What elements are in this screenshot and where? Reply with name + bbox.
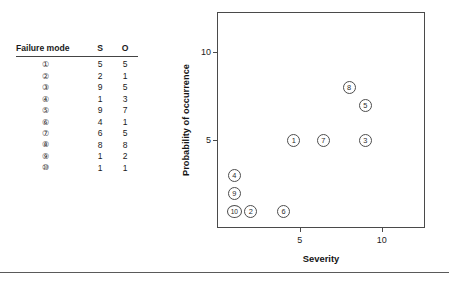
x-tick-label: 5 <box>297 235 302 245</box>
fmea-figure: Failure mode S O ①55②21③95④13⑤97⑥41⑦65⑧8… <box>0 0 449 283</box>
cell-severity: 4 <box>88 116 112 127</box>
table-head: Failure mode S O <box>16 44 138 56</box>
table-row: ⑥41 <box>16 116 138 127</box>
cell-severity: 1 <box>88 162 112 173</box>
circled-number: ⑧ <box>42 141 49 149</box>
cell-failure-mode: ⑧ <box>16 139 88 150</box>
table-row: ⑦65 <box>16 128 138 139</box>
y-tick-label: 5 <box>206 135 211 145</box>
table-row: ③95 <box>16 82 138 93</box>
circled-number: ④ <box>42 96 49 104</box>
cell-occurrence: 1 <box>112 116 138 127</box>
cell-failure-mode: ③ <box>16 82 88 93</box>
cell-severity: 5 <box>88 56 112 70</box>
cell-failure-mode: ① <box>16 56 88 70</box>
cell-occurrence: 1 <box>112 162 138 173</box>
x-tick-label: 10 <box>377 235 387 245</box>
cell-failure-mode: ⑨ <box>16 151 88 162</box>
data-point-marker: 9 <box>228 187 241 200</box>
data-point-marker: 2 <box>244 205 257 218</box>
cell-occurrence: 5 <box>112 82 138 93</box>
data-point-marker: 4 <box>228 169 241 182</box>
plot-frame: 510 510 12345678910 <box>217 12 425 228</box>
circled-number: ① <box>42 61 49 69</box>
cell-failure-mode: ② <box>16 70 88 81</box>
data-point-marker: 1 <box>287 134 300 147</box>
data-point-marker: 6 <box>277 205 290 218</box>
x-axis-title: Severity <box>303 253 339 264</box>
data-point-marker: 8 <box>343 81 356 94</box>
circled-number: ⑤ <box>42 107 49 115</box>
cell-severity: 8 <box>88 139 112 150</box>
cell-failure-mode: ⑤ <box>16 105 88 116</box>
cell-occurrence: 7 <box>112 105 138 116</box>
table-row: ⑩11 <box>16 162 138 173</box>
table-body: ①55②21③95④13⑤97⑥41⑦65⑧88⑨12⑩11 <box>16 56 138 174</box>
table-header-row: Failure mode S O <box>16 44 138 56</box>
x-tick-mark <box>382 227 383 232</box>
cell-occurrence: 1 <box>112 70 138 81</box>
bottom-divider <box>0 272 449 273</box>
table: Failure mode S O ①55②21③95④13⑤97⑥41⑦65⑧8… <box>16 44 138 174</box>
y-tick-mark <box>213 140 218 141</box>
cell-severity: 1 <box>88 151 112 162</box>
cell-severity: 6 <box>88 128 112 139</box>
table-row: ①55 <box>16 56 138 70</box>
data-point-marker: 5 <box>359 99 372 112</box>
table-row: ④13 <box>16 93 138 104</box>
column-header-severity: S <box>88 44 112 56</box>
data-point-marker: 3 <box>359 134 372 147</box>
failure-mode-table: Failure mode S O ①55②21③95④13⑤97⑥41⑦65⑧8… <box>16 44 138 174</box>
circled-number: ⑥ <box>42 119 49 127</box>
cell-failure-mode: ⑥ <box>16 116 88 127</box>
cell-failure-mode: ⑩ <box>16 162 88 173</box>
circled-number: ⑩ <box>42 164 49 172</box>
table-row: ⑧88 <box>16 139 138 150</box>
column-header-failure-mode: Failure mode <box>16 44 88 56</box>
column-header-occurrence: O <box>112 44 138 56</box>
circled-number: ② <box>42 73 49 81</box>
cell-occurrence: 3 <box>112 93 138 104</box>
cell-severity: 9 <box>88 82 112 93</box>
table-row: ⑤97 <box>16 105 138 116</box>
y-tick-label: 10 <box>201 47 211 57</box>
cell-severity: 2 <box>88 70 112 81</box>
table-row: ⑨12 <box>16 151 138 162</box>
circled-number: ⑦ <box>42 130 49 138</box>
table-row: ②21 <box>16 70 138 81</box>
cell-occurrence: 8 <box>112 139 138 150</box>
cell-failure-mode: ⑦ <box>16 128 88 139</box>
circled-number: ⑨ <box>42 153 49 161</box>
data-point-marker: 7 <box>317 134 330 147</box>
cell-severity: 9 <box>88 105 112 116</box>
cell-occurrence: 5 <box>112 128 138 139</box>
circled-number: ③ <box>42 84 49 92</box>
cell-occurrence: 5 <box>112 56 138 70</box>
y-tick-mark <box>213 52 218 53</box>
data-point-marker: 10 <box>227 205 242 218</box>
y-axis-title: Probability of occurrence <box>181 64 191 176</box>
x-tick-mark <box>300 227 301 232</box>
cell-occurrence: 2 <box>112 151 138 162</box>
cell-severity: 1 <box>88 93 112 104</box>
cell-failure-mode: ④ <box>16 93 88 104</box>
